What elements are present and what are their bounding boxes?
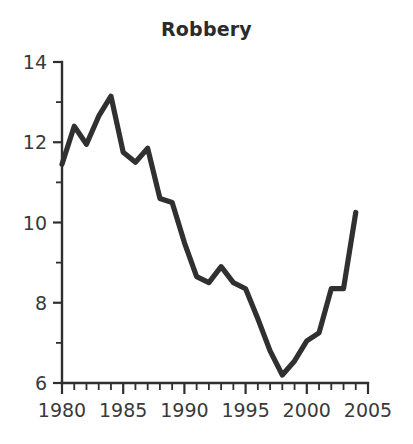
chart-container: Robbery 68101214 19801985199019952000200… [0,0,413,444]
x-axis-tick-label: 1990 [160,399,208,421]
y-axis-tick-label: 12 [23,131,47,153]
x-axis: 198019851990199520002005 [38,383,392,421]
data-line-robbery [62,96,356,375]
x-axis-tick-label: 1995 [221,399,269,421]
line-chart-plot: 68101214 198019851990199520002005 [0,0,413,444]
y-axis: 68101214 [23,51,62,394]
y-axis-tick-label: 6 [35,372,47,394]
x-axis-tick-label: 2000 [283,399,331,421]
x-axis-tick-label: 1980 [38,399,86,421]
data-series-group [62,96,356,375]
y-axis-tick-label: 14 [23,51,47,73]
x-axis-tick-label: 1985 [99,399,147,421]
y-axis-tick-label: 10 [23,212,47,234]
y-axis-tick-label: 8 [35,292,47,314]
x-axis-tick-label: 2005 [344,399,392,421]
